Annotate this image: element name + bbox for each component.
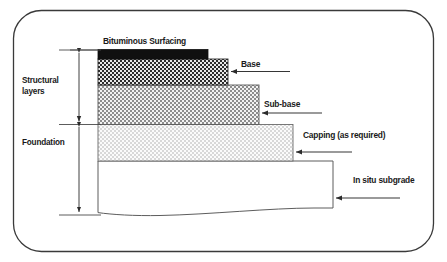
layer-subgrade (98, 161, 333, 216)
label-base: Base (241, 60, 260, 70)
label-foundation: Foundation (22, 138, 65, 148)
layer-capping (98, 125, 293, 162)
diagram-canvas: Bituminous Surfacing Base Sub-base Cappi… (0, 0, 447, 262)
label-subbase: Sub-base (264, 100, 300, 110)
layer-subbase (98, 85, 259, 125)
label-structural-layers-line1: Structural (22, 76, 59, 86)
label-capping: Capping (as required) (303, 131, 385, 141)
layer-base (98, 59, 228, 85)
layer-bituminous (98, 50, 208, 60)
label-in-situ-subgrade: In situ subgrade (353, 176, 414, 186)
label-structural-layers-line2: layers (22, 87, 44, 97)
bracket-tick-lines (59, 50, 101, 215)
label-bituminous-surfacing: Bituminous Surfacing (103, 37, 186, 47)
